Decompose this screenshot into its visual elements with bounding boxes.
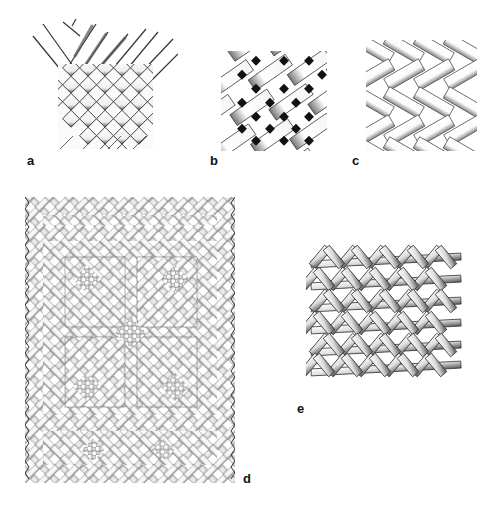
plain-weave-drawing <box>28 14 178 149</box>
diagonal-weave-drawing <box>213 45 328 153</box>
panel-b-weave-illustration <box>213 45 328 153</box>
panel-label-d: d <box>243 472 251 485</box>
panel-d-weave-illustration <box>25 197 235 483</box>
panel-c-weave-illustration <box>364 38 479 153</box>
panel-label-c: c <box>352 154 359 167</box>
panel-e-weave-illustration <box>306 237 466 387</box>
panel-label-e: e <box>297 402 304 415</box>
patterned-twill-drawing <box>25 197 235 483</box>
panel-label-b: b <box>210 154 218 167</box>
panel-a-weave-illustration <box>28 14 178 149</box>
hexagonal-open-weave-drawing <box>306 237 466 387</box>
panel-label-a: a <box>27 154 34 167</box>
herringbone-twill-drawing <box>364 38 479 153</box>
